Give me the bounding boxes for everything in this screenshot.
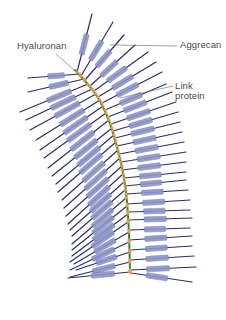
link-protein-dot [115,144,118,147]
aggrecan-molecule [129,226,190,232]
glycosaminoglycan-region [146,273,168,281]
link-protein-dot [103,108,106,111]
glycosaminoglycan-region [143,208,165,214]
aggrecan-molecule [130,245,192,252]
link-protein-dot [128,268,131,271]
link-protein-dot [96,95,99,98]
aggrecan-molecule [128,216,192,222]
link-protein-dot [92,89,95,92]
link-protein-dot [110,126,113,129]
glycosaminoglycan-region [79,34,89,56]
link-protein-dot [122,180,125,183]
link-protein-dot [118,156,121,159]
link-protein-dot [128,258,131,261]
link-protein-dot [101,104,104,107]
aggrecan-branches [20,14,196,282]
link-protein-dot [124,196,127,199]
aggrecan-molecule [121,152,186,162]
link-protein-dot [120,168,123,171]
link-protein-dot [116,148,119,151]
glycosaminoglycan-region [143,199,165,206]
aggrecan-molecule [115,122,180,138]
aggrecan-molecule [127,199,190,206]
link-protein-dot [120,164,123,167]
aggrecan-molecule [125,180,186,187]
glycosaminoglycan-region [146,266,169,272]
link-protein-dot [88,84,91,87]
glycosaminoglycan-region [145,245,167,252]
link-protein-dot [127,228,130,231]
glycosaminoglycan-region [141,189,163,196]
aggrecan-molecule [126,189,188,196]
link-protein-dot [75,70,78,73]
link-protein-dot [113,136,116,139]
link-protein-dot [126,218,129,221]
link-protein-dot [100,101,103,104]
glycosaminoglycan-region [146,255,169,262]
glycosaminoglycan-region [145,235,167,242]
link-protein-label-line2: protein [175,91,205,101]
aggrecan-molecule [130,255,194,262]
link-protein-dot [129,271,132,274]
link-protein-dot [122,176,125,179]
glycosaminoglycan-region [144,216,167,222]
glycosaminoglycan-region [140,180,162,187]
aggrecan-molecule [28,73,80,79]
aggrecan-molecule [130,266,196,272]
aggrecan-molecule [124,172,186,179]
glycosaminoglycan-region [138,163,161,171]
link-protein-dot [119,160,122,163]
hyaluronan-leader-line [56,54,74,70]
aggrecan-molecule [77,14,92,72]
link-protein-dot [94,92,97,95]
link-protein-dot [127,238,130,241]
aggrecan-molecule [129,235,192,242]
glycosaminoglycan-region [137,153,161,162]
aggrecan-leader-line [110,45,177,46]
aggrecan-molecule [131,273,192,282]
link-protein-dot [109,122,112,125]
aggrecan-label: Aggrecan [180,40,221,50]
link-protein-dot [124,192,127,195]
link-protein-dot [83,78,86,81]
link-protein-dot [125,202,128,205]
link-protein-dot [111,129,114,132]
aggrecan-molecule [122,162,186,171]
link-protein-dot [121,172,124,175]
hyaluronan-label: Hyaluronan [17,41,67,51]
link-protein-dot [114,140,117,143]
link-protein-dot [79,74,82,77]
aggrecan-molecule [128,208,190,214]
glycosaminoglycan-region [144,226,166,232]
glycosaminoglycan-region [48,73,65,79]
link-protein-dot [112,133,115,136]
link-protein-dot [123,188,126,191]
link-protein-dot [123,184,126,187]
link-protein-dot [104,111,107,114]
glycosaminoglycan-region [135,144,159,153]
link-protein-dot [128,248,131,251]
link-protein-dot [117,152,120,155]
link-protein-dot [126,210,129,213]
link-protein-dot [107,118,110,121]
link-protein-dot [98,98,101,101]
aggrecan-molecule [28,79,84,92]
link-protein-dot [106,115,109,118]
glycosaminoglycan-region [133,135,157,145]
glycosaminoglycan-region [139,172,161,179]
glycosaminoglycan-region [49,80,69,89]
